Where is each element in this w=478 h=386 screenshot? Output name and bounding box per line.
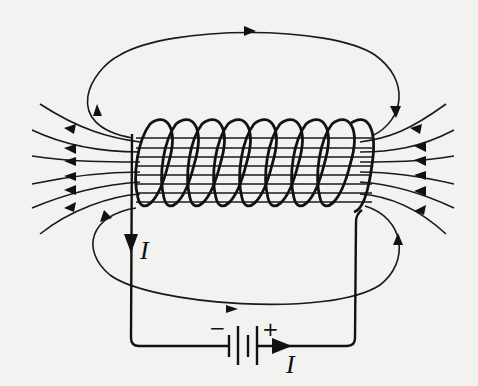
current-label-bottom: I xyxy=(286,352,295,378)
battery-negative-sign: − xyxy=(209,318,226,338)
circuit-wires xyxy=(124,134,362,354)
arrow-down-icon xyxy=(390,106,401,118)
arrow-right-icon xyxy=(226,305,238,313)
arrow-up-icon xyxy=(393,233,403,245)
right-field-lines xyxy=(360,104,454,234)
current-arrow-down-icon xyxy=(124,234,138,253)
arrow-right-icon xyxy=(244,26,256,36)
current-label-left: I xyxy=(140,238,149,264)
arrow-up-icon xyxy=(93,104,102,116)
solenoid-diagram xyxy=(0,0,478,386)
battery xyxy=(229,326,257,365)
battery-positive-sign: + xyxy=(262,319,279,339)
left-field-lines xyxy=(32,104,140,234)
